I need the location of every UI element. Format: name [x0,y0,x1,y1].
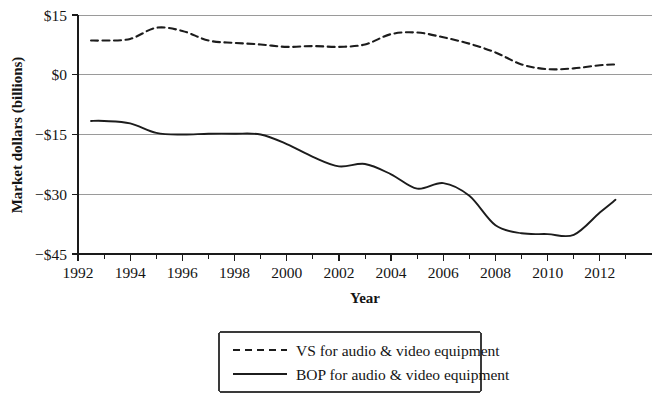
x-tick-label: 2002 [323,264,354,281]
x-tick-label: 1992 [63,264,94,281]
legend-label-vs: VS for audio & video equipment [296,342,500,359]
y-tick-label: −$30 [35,186,67,203]
x-tick-label: 2012 [584,264,615,281]
y-axis-title: Market dollars (billions) [9,57,26,214]
x-tick-label: 2004 [376,264,407,281]
x-tick-label: 2010 [532,264,563,281]
y-tick-label: $15 [44,7,68,24]
series-line-vs [91,27,615,69]
y-tick-label: −$15 [35,126,67,143]
x-tick-label: 2006 [428,264,459,281]
legend-box [219,332,481,392]
data-series-group [91,27,615,236]
chart-figure: $15$0−$15−$30−$45 1992199419961998200020… [0,0,669,394]
x-tick-label: 2000 [271,264,302,281]
line-chart: $15$0−$15−$30−$45 1992199419961998200020… [0,0,669,394]
y-axis-tick-labels: $15$0−$15−$30−$45 [35,7,67,263]
x-tick-label: 2008 [480,264,511,281]
x-tick-label: 1994 [115,264,146,281]
y-tick-label: −$45 [35,246,67,263]
x-axis-tick-labels: 1992199419961998200020022004200620082010… [63,264,616,281]
legend-label-bop: BOP for audio & video equipment [296,366,510,383]
x-tick-label: 1996 [167,264,198,281]
y-tick-label: $0 [52,66,68,83]
series-line-bop [91,121,615,237]
x-axis-title: Year [350,290,380,306]
x-tick-label: 1998 [219,264,250,281]
y-axis-tick-marks [72,15,78,254]
